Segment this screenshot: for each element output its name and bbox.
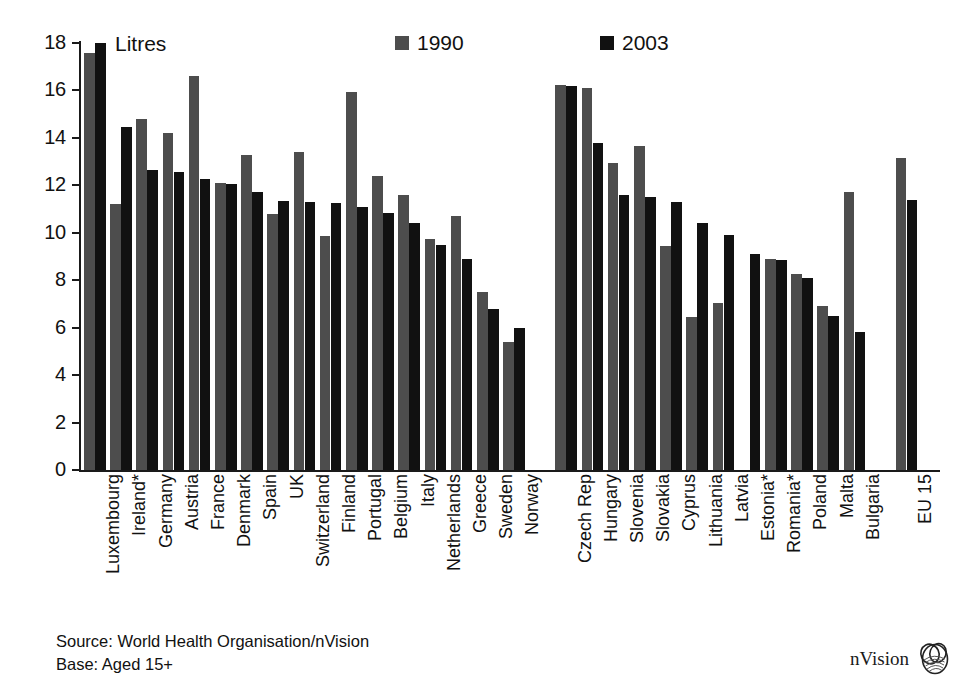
bar-group [241, 43, 267, 470]
bar-2003[interactable] [252, 192, 263, 470]
bar-2003[interactable] [645, 197, 656, 470]
x-axis-label: Malta [838, 474, 856, 518]
bar-2003[interactable] [409, 223, 420, 470]
bar-2003[interactable] [802, 278, 813, 470]
bar-1990[interactable] [686, 317, 697, 470]
x-axis-label: France [209, 474, 227, 530]
bar-2003[interactable] [95, 43, 106, 470]
y-tick-label-text: 2 [30, 412, 66, 432]
bar-1990[interactable] [294, 152, 305, 470]
bar-2003[interactable] [436, 245, 447, 470]
bar-1990[interactable] [372, 176, 383, 470]
bar-group [477, 43, 503, 470]
x-axis-label: Latvia [733, 474, 751, 522]
bar-1990[interactable] [844, 192, 855, 470]
bar-1990[interactable] [660, 246, 671, 470]
bar-2003[interactable] [828, 316, 839, 470]
bar-group [451, 43, 477, 470]
bar-2003[interactable] [907, 200, 918, 470]
footer-source-line: Source: World Health Organisation/nVisio… [56, 630, 369, 653]
x-axis-label: Hungary [602, 474, 620, 542]
bar-1990[interactable] [320, 236, 331, 470]
bar-1990[interactable] [136, 119, 147, 470]
x-axis-label: Lithuania [707, 474, 725, 547]
x-axis-label: Portugal [366, 474, 384, 541]
bar-1990[interactable] [163, 133, 174, 470]
bar-group [660, 43, 686, 470]
bar-1990[interactable] [896, 158, 907, 470]
bar-2003[interactable] [278, 201, 289, 470]
y-tick-8 [72, 279, 80, 281]
bar-group [110, 43, 136, 470]
bar-group [739, 43, 765, 470]
y-tick-label-text: 18 [30, 32, 66, 52]
bar-1990[interactable] [608, 163, 619, 470]
chart-footer: Source: World Health Organisation/nVisio… [56, 630, 369, 676]
y-tick-label-text: 8 [30, 269, 66, 289]
bar-1990[interactable] [267, 214, 278, 470]
bar-2003[interactable] [331, 203, 342, 470]
bar-2003[interactable] [488, 309, 499, 470]
bar-2003[interactable] [855, 332, 866, 470]
y-tick-label-0: 0 [22, 459, 66, 479]
bar-1990[interactable] [451, 216, 462, 470]
bar-1990[interactable] [346, 92, 357, 470]
bar-2003[interactable] [697, 223, 708, 470]
x-axis-label: Sweden [497, 474, 515, 539]
bar-1990[interactable] [791, 274, 802, 470]
y-tick-10 [72, 232, 80, 234]
bar-1990[interactable] [477, 292, 488, 470]
x-axis-label: Luxembourg [104, 474, 122, 574]
plot-area [80, 43, 940, 470]
bar-1990[interactable] [634, 146, 645, 470]
bar-group [503, 43, 529, 470]
nvision-logo-icon [911, 636, 957, 682]
bar-1990[interactable] [425, 239, 436, 470]
bar-2003[interactable] [200, 179, 211, 470]
x-axis-label: Denmark [235, 474, 253, 547]
y-tick-14 [72, 137, 80, 139]
bar-1990[interactable] [84, 53, 95, 471]
bar-1990[interactable] [817, 306, 828, 470]
x-axis-label: Switzerland [314, 474, 332, 567]
bar-1990[interactable] [189, 76, 200, 470]
bar-group [582, 43, 608, 470]
bar-1990[interactable] [503, 342, 514, 470]
bar-2003[interactable] [462, 259, 473, 470]
bar-1990[interactable] [555, 85, 566, 470]
bar-1990[interactable] [110, 204, 121, 470]
bar-group [398, 43, 424, 470]
y-tick-label-16: 16 [22, 79, 66, 99]
nvision-brand: nVision [850, 636, 957, 682]
x-axis-label: Slovakia [654, 474, 672, 542]
bar-1990[interactable] [765, 259, 776, 470]
y-tick-4 [72, 374, 80, 376]
bar-2003[interactable] [724, 235, 735, 470]
x-axis-label: Netherlands [445, 474, 463, 571]
bar-2003[interactable] [750, 254, 761, 470]
x-axis-label: UK [288, 474, 306, 499]
bar-2003[interactable] [121, 127, 132, 470]
bar-group [713, 43, 739, 470]
bar-1990[interactable] [398, 195, 409, 470]
bar-2003[interactable] [671, 202, 682, 470]
x-axis-label: Belgium [392, 474, 410, 539]
bar-group [791, 43, 817, 470]
bar-2003[interactable] [147, 170, 158, 470]
bar-1990[interactable] [713, 303, 724, 470]
bar-1990[interactable] [582, 88, 593, 470]
bar-2003[interactable] [226, 184, 237, 470]
bar-2003[interactable] [174, 172, 185, 470]
bar-2003[interactable] [357, 207, 368, 470]
y-tick-label-text: 4 [30, 364, 66, 384]
bar-2003[interactable] [514, 328, 525, 470]
bar-2003[interactable] [305, 202, 316, 470]
bar-2003[interactable] [566, 86, 577, 470]
bar-1990[interactable] [215, 183, 226, 470]
bar-1990[interactable] [241, 155, 252, 471]
bar-group [425, 43, 451, 470]
bar-2003[interactable] [776, 260, 787, 470]
bar-2003[interactable] [619, 195, 630, 470]
bar-2003[interactable] [593, 143, 604, 470]
bar-2003[interactable] [383, 213, 394, 470]
